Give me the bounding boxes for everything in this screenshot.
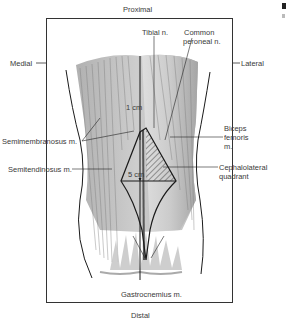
label-semimembranosus: Semimembranosus m.	[2, 137, 77, 146]
measurement-1cm: 1 cm	[126, 103, 142, 112]
label-common-peroneal-nerve-line1: Common	[184, 28, 214, 37]
measurement-5cm: 5 cm	[128, 170, 144, 179]
label-cephalolateral-line1: Cephalolateral	[219, 163, 267, 172]
label-common-peroneal-nerve-line2: peroneal n.	[183, 37, 221, 46]
label-biceps-line2: femoris	[224, 133, 249, 142]
label-gastrocnemius: Gastrocnemius m.	[121, 290, 182, 299]
label-cephalolateral-line2: quadrant	[219, 172, 249, 181]
label-biceps-line1: Biceps	[224, 124, 247, 133]
label-biceps-line3: m.	[224, 142, 232, 151]
label-tibial-nerve: Tibial n.	[142, 28, 168, 37]
label-semitendinosus: Semitendinosus m.	[8, 165, 72, 174]
